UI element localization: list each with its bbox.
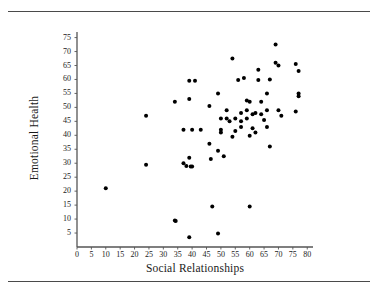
data-point xyxy=(253,131,257,135)
data-point xyxy=(210,205,214,209)
data-point xyxy=(279,114,283,118)
data-point xyxy=(207,142,211,146)
data-point xyxy=(259,100,263,104)
data-point xyxy=(207,104,211,108)
data-point xyxy=(297,94,301,98)
y-tick-label: 30 xyxy=(49,158,71,167)
y-tick-label: 5 xyxy=(49,228,71,237)
data-point-group xyxy=(104,43,301,240)
data-point xyxy=(233,117,237,121)
x-axis-title: Social Relationships xyxy=(77,262,313,274)
data-point xyxy=(216,232,220,236)
data-point xyxy=(248,134,252,138)
y-tick-label: 65 xyxy=(49,61,71,70)
data-point xyxy=(268,77,272,81)
data-point xyxy=(242,76,246,80)
data-point xyxy=(181,128,185,132)
data-point xyxy=(265,91,269,95)
data-point xyxy=(219,117,223,121)
data-point xyxy=(248,100,252,104)
data-point xyxy=(228,119,232,123)
y-tick-label: 10 xyxy=(49,214,71,223)
data-point xyxy=(236,78,240,82)
y-tick-label: 40 xyxy=(49,130,71,139)
data-point xyxy=(276,64,280,68)
y-tick-label: 20 xyxy=(49,186,71,195)
data-point xyxy=(181,161,185,165)
tick-marks xyxy=(75,38,308,250)
y-tick-label: 35 xyxy=(49,144,71,153)
y-axis-title: Emotional Health xyxy=(28,83,40,193)
data-point xyxy=(187,156,191,160)
data-point xyxy=(216,91,220,95)
data-point xyxy=(245,117,249,121)
data-point xyxy=(187,235,191,239)
data-point xyxy=(253,111,257,115)
data-point xyxy=(245,108,249,112)
data-point xyxy=(190,128,194,132)
y-tick-label: 55 xyxy=(49,88,71,97)
data-point xyxy=(209,157,213,161)
x-tick-label: 80 xyxy=(295,250,319,259)
data-point xyxy=(173,100,177,104)
y-tick-label: 60 xyxy=(49,74,71,83)
y-tick-label: 25 xyxy=(49,172,71,181)
data-point xyxy=(239,125,243,129)
data-point xyxy=(174,219,178,223)
data-point xyxy=(265,125,269,129)
data-point xyxy=(248,205,252,209)
data-point xyxy=(294,62,298,66)
data-point xyxy=(184,164,188,168)
data-point xyxy=(230,57,234,61)
data-point xyxy=(190,165,194,169)
data-point xyxy=(259,112,263,116)
figure-page: 05101520253035404550556065707580 5101520… xyxy=(0,0,378,290)
data-point xyxy=(265,108,269,112)
data-point xyxy=(144,114,148,118)
data-point xyxy=(251,126,255,130)
y-tick-label: 75 xyxy=(49,33,71,42)
data-point xyxy=(276,108,280,112)
y-tick-label: 15 xyxy=(49,200,71,209)
data-point xyxy=(268,144,272,148)
data-point xyxy=(144,163,148,167)
data-point xyxy=(187,97,191,101)
data-point xyxy=(219,131,223,135)
data-point xyxy=(294,110,298,114)
data-point xyxy=(222,154,226,158)
data-point xyxy=(239,119,243,123)
data-point xyxy=(225,108,229,112)
data-point xyxy=(256,68,260,72)
data-point xyxy=(262,118,266,122)
data-point xyxy=(193,79,197,83)
y-tick-label: 50 xyxy=(49,102,71,111)
data-point xyxy=(104,186,108,190)
y-tick-label: 45 xyxy=(49,116,71,125)
data-point xyxy=(199,128,203,132)
data-point xyxy=(216,149,220,153)
data-point xyxy=(274,61,278,65)
data-point xyxy=(230,135,234,139)
data-point xyxy=(256,78,260,82)
data-point xyxy=(239,111,243,115)
data-point xyxy=(187,79,191,83)
data-point xyxy=(233,129,237,133)
y-tick-label: 70 xyxy=(49,47,71,56)
scatter-plot-figure: 05101520253035404550556065707580 5101520… xyxy=(0,0,378,290)
data-point xyxy=(297,69,301,73)
data-point xyxy=(225,117,229,121)
data-point xyxy=(274,43,278,47)
